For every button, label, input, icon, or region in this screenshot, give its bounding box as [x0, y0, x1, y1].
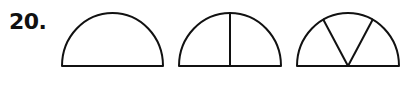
semicircle-outline: [297, 13, 399, 66]
figure-semicircle-undivided: [62, 13, 163, 66]
figure-semicircle-thirds: [297, 13, 399, 66]
figure-semicircle-halves: [179, 13, 281, 66]
divider-line-left: [323, 19, 348, 66]
divider-line-right: [348, 19, 373, 66]
semicircle-figures: [0, 0, 404, 86]
semicircle-outline: [62, 13, 163, 66]
